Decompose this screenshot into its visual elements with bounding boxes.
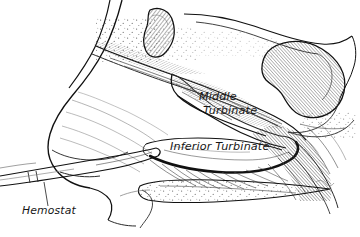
middle-turbinate-label-line1: Middle [199,90,237,103]
middle-turbinate-label-line2: Turbinate [203,104,257,117]
illustration-canvas: Middle Turbinate Inferior Turbinate Hemo… [0,0,360,237]
hemostat-label: Hemostat [22,204,76,217]
nasal-anatomy-illustration: Middle Turbinate Inferior Turbinate Hemo… [0,0,360,237]
inferior-turbinate-label: Inferior Turbinate [170,140,269,153]
